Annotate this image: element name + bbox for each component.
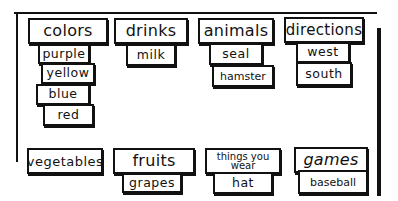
word-card-grapes[interactable]: grapes bbox=[122, 173, 182, 193]
category-card-colors[interactable]: colors bbox=[28, 18, 108, 44]
board-left-edge bbox=[16, 12, 18, 162]
word-card-yellow[interactable]: yellow bbox=[41, 63, 95, 84]
board-top-edge bbox=[14, 12, 377, 14]
category-card-animals[interactable]: animals bbox=[198, 18, 274, 44]
word-card-purple[interactable]: purple bbox=[38, 44, 90, 64]
word-card-hat[interactable]: hat bbox=[213, 172, 273, 194]
board-right-edge bbox=[377, 28, 381, 196]
category-card-directions[interactable]: directions bbox=[284, 17, 364, 43]
category-card-vegetables[interactable]: vegetables bbox=[27, 148, 103, 174]
word-card-hamster[interactable]: hamster bbox=[212, 65, 274, 87]
word-card-south[interactable]: south bbox=[296, 62, 352, 86]
category-card-fruits[interactable]: fruits bbox=[113, 148, 195, 174]
word-card-seal[interactable]: seal bbox=[209, 43, 263, 65]
word-card-milk[interactable]: milk bbox=[126, 44, 176, 66]
category-card-drinks[interactable]: drinks bbox=[114, 18, 188, 44]
header-line-2: wear bbox=[231, 161, 256, 171]
word-card-red[interactable]: red bbox=[43, 104, 94, 126]
word-card-baseball[interactable]: baseball bbox=[298, 170, 368, 194]
word-card-west[interactable]: west bbox=[296, 42, 350, 63]
word-card-blue[interactable]: blue bbox=[36, 84, 90, 105]
category-card-things-you-wear[interactable]: things you wear bbox=[205, 148, 281, 174]
